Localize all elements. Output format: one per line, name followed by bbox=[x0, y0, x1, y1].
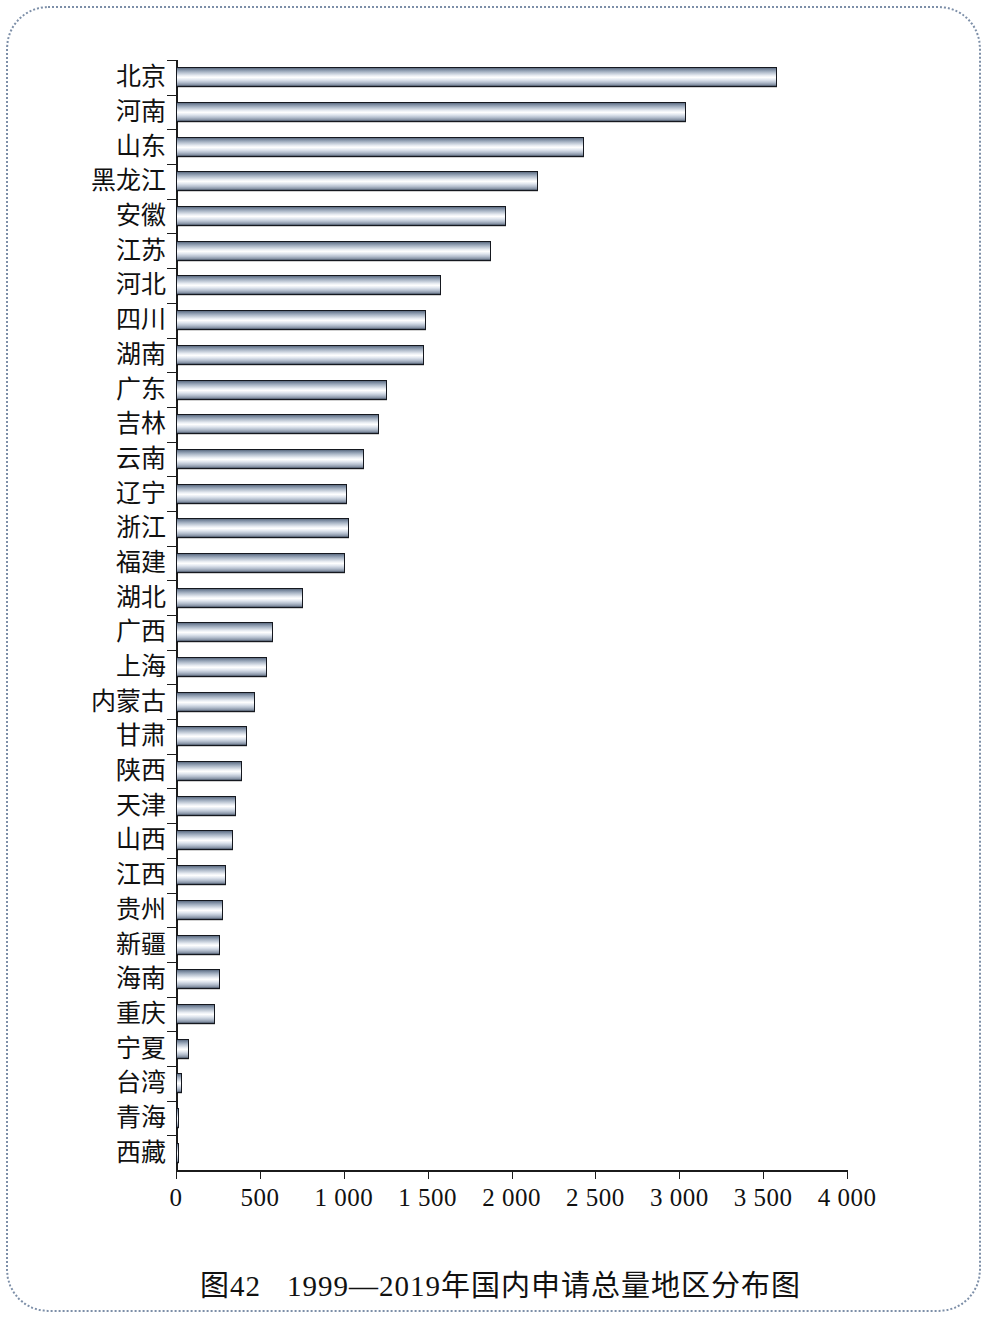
bar bbox=[176, 275, 441, 295]
category-label: 广西 bbox=[116, 619, 166, 644]
y-axis-tick bbox=[167, 823, 176, 824]
bar bbox=[176, 484, 347, 504]
bar bbox=[176, 935, 220, 955]
x-axis-tick-label: 0 bbox=[170, 1184, 183, 1212]
y-axis-tick bbox=[167, 893, 176, 894]
x-axis-tick-label: 2 500 bbox=[566, 1184, 625, 1212]
y-axis-tick bbox=[167, 511, 176, 512]
y-axis-tick bbox=[167, 719, 176, 720]
y-axis-tick bbox=[167, 684, 176, 685]
bar bbox=[176, 380, 387, 400]
figure-title: 1999—2019年国内申请总量地区分布图 bbox=[287, 1270, 801, 1302]
y-axis-tick bbox=[167, 476, 176, 477]
bar bbox=[176, 726, 247, 746]
category-label: 吉林 bbox=[116, 411, 166, 436]
x-axis-tick bbox=[344, 1170, 345, 1179]
category-label: 江西 bbox=[116, 862, 166, 887]
category-label: 江苏 bbox=[116, 238, 166, 263]
bar bbox=[176, 1073, 182, 1093]
bar bbox=[176, 657, 267, 677]
y-axis-tick bbox=[167, 1066, 176, 1067]
category-label: 内蒙古 bbox=[91, 689, 166, 714]
y-axis-tick bbox=[167, 164, 176, 165]
bar bbox=[176, 900, 223, 920]
x-axis-tick-label: 2 000 bbox=[482, 1184, 541, 1212]
bar bbox=[176, 414, 379, 434]
x-axis-tick bbox=[847, 1170, 848, 1179]
y-axis-tick bbox=[167, 580, 176, 581]
y-axis-tick bbox=[167, 303, 176, 304]
category-label: 山西 bbox=[116, 827, 166, 852]
bar bbox=[176, 310, 426, 330]
bar bbox=[176, 241, 491, 261]
y-axis-tick bbox=[167, 546, 176, 547]
y-axis-tick bbox=[167, 268, 176, 269]
bar bbox=[176, 67, 777, 87]
y-axis-tick bbox=[167, 997, 176, 998]
category-label: 上海 bbox=[116, 654, 166, 679]
category-label: 湖南 bbox=[116, 342, 166, 367]
x-axis-tick bbox=[763, 1170, 764, 1179]
category-label: 辽宁 bbox=[116, 481, 166, 506]
category-label: 河北 bbox=[116, 272, 166, 297]
category-label: 福建 bbox=[116, 550, 166, 575]
y-axis-tick bbox=[167, 372, 176, 373]
y-axis-tick bbox=[167, 233, 176, 234]
bar bbox=[176, 796, 236, 816]
bar bbox=[176, 171, 538, 191]
y-axis-tick bbox=[167, 1135, 176, 1136]
category-label: 海南 bbox=[116, 966, 166, 991]
y-axis-tick bbox=[167, 60, 176, 61]
y-axis-tick bbox=[167, 650, 176, 651]
x-axis-tick bbox=[679, 1170, 680, 1179]
bar bbox=[176, 969, 220, 989]
category-label: 四川 bbox=[116, 307, 166, 332]
y-axis-tick bbox=[167, 442, 176, 443]
category-label: 甘肃 bbox=[116, 723, 166, 748]
bar bbox=[176, 137, 584, 157]
x-axis-tick-label: 1 500 bbox=[398, 1184, 457, 1212]
bar bbox=[176, 102, 686, 122]
x-axis-tick bbox=[260, 1170, 261, 1179]
figure-number: 图42 bbox=[200, 1270, 261, 1302]
category-label: 西藏 bbox=[116, 1140, 166, 1165]
category-label: 河南 bbox=[116, 99, 166, 124]
y-axis-tick bbox=[167, 858, 176, 859]
category-label: 安徽 bbox=[116, 203, 166, 228]
y-axis-tick bbox=[167, 1101, 176, 1102]
x-axis-tick-label: 3 000 bbox=[650, 1184, 709, 1212]
x-axis-tick bbox=[595, 1170, 596, 1179]
bar bbox=[176, 622, 273, 642]
y-axis-tick bbox=[167, 129, 176, 130]
x-axis-tick-label: 3 500 bbox=[734, 1184, 793, 1212]
y-axis-tick bbox=[167, 407, 176, 408]
category-label: 青海 bbox=[116, 1105, 166, 1130]
category-label: 山东 bbox=[116, 134, 166, 159]
bar bbox=[176, 1039, 189, 1059]
category-axis-labels: 北京河南山东黑龙江安徽江苏河北四川湖南广东吉林云南辽宁浙江福建湖北广西上海内蒙古… bbox=[0, 60, 166, 1170]
bar bbox=[176, 692, 255, 712]
category-label: 陕西 bbox=[116, 758, 166, 783]
category-label: 湖北 bbox=[116, 585, 166, 610]
category-label: 黑龙江 bbox=[91, 168, 166, 193]
category-label: 重庆 bbox=[116, 1001, 166, 1026]
bar bbox=[176, 761, 242, 781]
x-axis-tick bbox=[428, 1170, 429, 1179]
x-axis-tick-label: 1 000 bbox=[314, 1184, 373, 1212]
bar bbox=[176, 588, 303, 608]
figure-container: 北京河南山东黑龙江安徽江苏河北四川湖南广东吉林云南辽宁浙江福建湖北广西上海内蒙古… bbox=[0, 0, 1001, 1332]
x-axis-tick-label: 4 000 bbox=[818, 1184, 877, 1212]
category-label: 台湾 bbox=[116, 1070, 166, 1095]
bar bbox=[176, 1143, 179, 1163]
category-label: 贵州 bbox=[116, 897, 166, 922]
y-axis-tick bbox=[167, 754, 176, 755]
x-axis-tick-label: 500 bbox=[240, 1184, 279, 1212]
x-axis-tick bbox=[512, 1170, 513, 1179]
y-axis-tick bbox=[167, 199, 176, 200]
y-axis-tick bbox=[167, 962, 176, 963]
category-label: 新疆 bbox=[116, 932, 166, 957]
y-axis-tick bbox=[167, 615, 176, 616]
category-label: 广东 bbox=[116, 377, 166, 402]
bar bbox=[176, 1108, 179, 1128]
y-axis-tick bbox=[167, 927, 176, 928]
